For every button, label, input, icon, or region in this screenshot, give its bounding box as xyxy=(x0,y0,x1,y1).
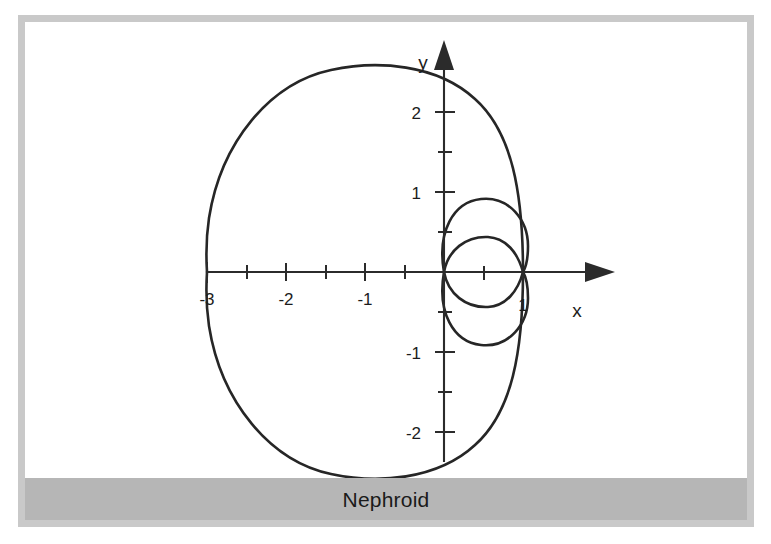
curve-lower-loop xyxy=(442,272,528,345)
y-axis-arrow-icon xyxy=(434,40,454,70)
x-tick-label-neg2: -2 xyxy=(278,290,293,309)
x-tick-label-neg3: -3 xyxy=(199,290,214,309)
figure-title: Nephroid xyxy=(343,489,430,510)
y-tick-label-neg1: -1 xyxy=(406,344,421,363)
curve-upper-loop xyxy=(442,199,528,272)
y-tick-label-2: 2 xyxy=(412,104,421,123)
figure-title-band: Nephroid xyxy=(25,478,747,520)
y-tick-label-1: 1 xyxy=(412,184,421,203)
curve-outer-upper xyxy=(206,65,523,272)
x-axis-ticks xyxy=(207,262,523,290)
x-axis-arrow-icon xyxy=(585,262,615,282)
x-tick-label-neg1: -1 xyxy=(357,290,372,309)
x-axis-label: x xyxy=(572,300,582,321)
y-tick-label-neg2: -2 xyxy=(406,424,421,443)
x-tick-label-1: 1 xyxy=(518,296,527,315)
y-axis-label: y xyxy=(418,52,428,73)
plot-svg: -3 -2 -1 1 2 1 -1 -2 y x xyxy=(25,22,747,478)
plot-canvas: -3 -2 -1 1 2 1 -1 -2 y x xyxy=(25,22,747,478)
figure-root: -3 -2 -1 1 2 1 -1 -2 y x Nephroid xyxy=(0,0,771,544)
